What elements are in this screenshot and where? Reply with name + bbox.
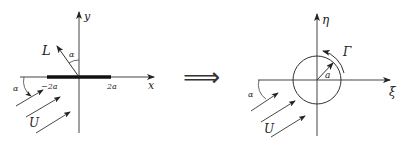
conformal-map-diagram: y x L α α −2a 2a U ⟹ η ξ Γ a α U [0,0,403,145]
circulation-label: Γ [342,45,352,59]
flow-arrow-r3 [271,116,305,137]
plate-diagram: y x L α α −2a 2a U [13,10,155,133]
circle-diagram: η ξ Γ a α U [248,13,397,137]
lift-label: L [41,43,51,58]
xi-axis-label: ξ [389,85,397,99]
lift-angle-label: α [69,50,75,59]
x-axis-label: x [148,79,155,92]
flow-angle-arc [23,77,31,96]
flow-label: U [29,116,40,130]
maps-to-arrow: ⟹ [183,62,220,92]
flow-arrow-2 [26,97,60,117]
flow-label-right: U [264,122,275,136]
flow-angle-label-right: α [248,90,254,99]
plate-right-label: 2a [106,82,117,91]
flow-arrow-3 [36,112,70,133]
lift-angle-arc [69,60,79,63]
flow-angle-arc-right [258,80,266,99]
plate-left-label: −2a [41,82,58,91]
y-axis-label: y [83,10,91,23]
flow-arrow-1 [16,90,43,106]
flow-arrow-r1 [251,93,278,111]
eta-axis-label: η [322,13,330,27]
radius-label: a [325,70,330,80]
flow-arrow-r2 [261,101,295,122]
flow-angle-label: α [13,84,19,93]
lift-arrow [57,46,79,77]
